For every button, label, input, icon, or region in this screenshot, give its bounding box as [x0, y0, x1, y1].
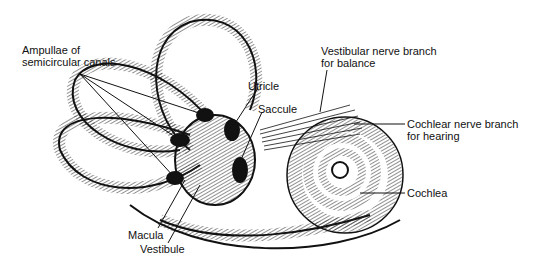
label-vestibular-nerve: Vestibular nerve branch for balance — [321, 45, 437, 69]
label-ampullae: Ampullae of semicircular canals — [22, 44, 116, 68]
cochlea-spiral — [287, 117, 403, 233]
label-saccule: Saccule — [258, 103, 297, 115]
label-macula: Macula — [128, 229, 163, 241]
label-utricle: Utricle — [248, 80, 279, 92]
label-cochlea: Cochlea — [407, 187, 447, 199]
label-cochlear-nerve: Cochlear nerve branch for hearing — [407, 118, 518, 142]
label-vestibule: Vestibule — [140, 243, 185, 255]
